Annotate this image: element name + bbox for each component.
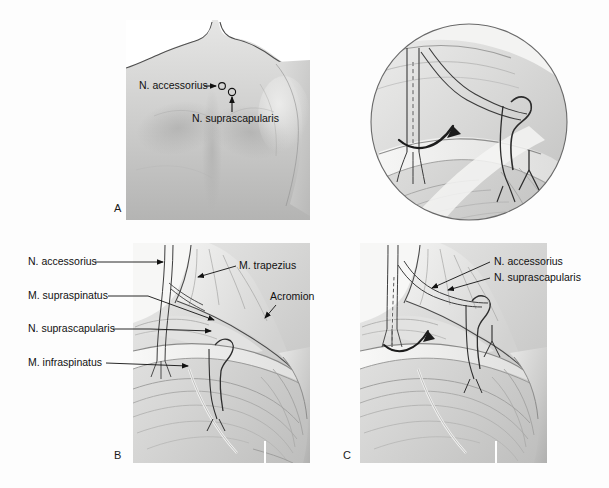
label-panel-b-suprascapularis: N. suprascapularis <box>28 323 115 335</box>
label-panel-b-acromion: Acromion <box>270 291 314 303</box>
label-panel-b-trapezius: M. trapezius <box>239 260 296 272</box>
label-panel-b-supraspinatus: M. supraspinatus <box>28 290 108 302</box>
anatomical-figure: N. accessorius N. suprascapularis A N. a… <box>0 0 609 488</box>
panel-b-artwork <box>133 243 310 463</box>
label-panel-a-accessorius: N. accessorius <box>139 80 208 92</box>
label-panel-c-accessorius: N. accessorius <box>494 256 563 268</box>
panel-letter-c: C <box>343 449 351 461</box>
label-panel-c-suprascapularis: N. suprascapularis <box>494 272 581 284</box>
label-panel-a-suprascapularis: N. suprascapularis <box>192 113 279 125</box>
label-panel-b-infraspinatus: M. infraspinatus <box>28 357 102 369</box>
inset-artwork <box>369 22 569 222</box>
panel-b-illustration <box>133 243 310 463</box>
label-panel-b-accessorius: N. accessorius <box>28 256 97 268</box>
panel-letter-b: B <box>114 449 122 461</box>
panel-letter-a: A <box>114 202 122 214</box>
inset-circular-detail <box>369 22 569 222</box>
